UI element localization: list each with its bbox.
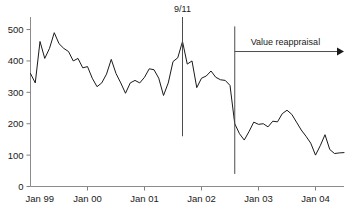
x-axis-tick-label: Jan 02: [187, 193, 216, 204]
chart-canvas: 0100200300400500 Jan 99Jan 00Jan 01Jan 0…: [0, 0, 348, 217]
x-axis-tick-label: Jan 01: [130, 193, 159, 204]
line-chart-figure: 0100200300400500 Jan 99Jan 00Jan 01Jan 0…: [0, 0, 348, 217]
y-axis-tick-label: 500: [8, 24, 24, 35]
x-axis-tick-label: Jan 00: [73, 193, 102, 204]
y-axis-tick-label: 300: [8, 87, 24, 98]
y-axis-tick-label: 200: [8, 118, 24, 129]
x-axis-tick-label: Jan 03: [244, 193, 273, 204]
y-axis-tick-label: 100: [8, 150, 24, 161]
x-axis-tick-label: Jan 04: [301, 193, 330, 204]
nine-eleven-label: 9/11: [174, 4, 191, 14]
y-axis-tick-label: 0: [18, 181, 23, 192]
value-reappraisal-label: Value reappraisal: [251, 37, 320, 47]
y-axis-tick-label: 400: [8, 55, 24, 66]
chart-background: [0, 0, 348, 217]
x-axis-tick-label: Jan 99: [26, 193, 55, 204]
